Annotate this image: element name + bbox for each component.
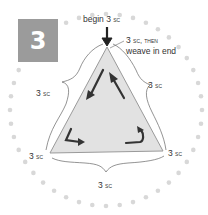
- label-right-sc: sc: [155, 81, 162, 90]
- begin-arrow-icon: [102, 27, 112, 46]
- label-br-sc: sc: [175, 149, 182, 158]
- label-left-num: 3: [36, 88, 41, 98]
- label-bottom-sc: sc: [105, 181, 112, 190]
- label-weave-line2: weave in end: [126, 46, 176, 56]
- label-weave-in-end: 3 sc, then weave in end: [126, 35, 176, 56]
- label-bl-sc: sc: [36, 152, 43, 161]
- label-weave-num: 3: [126, 35, 131, 45]
- label-left-side: 3 sc: [36, 88, 50, 99]
- label-bottom-right: 3 sc: [168, 148, 182, 159]
- step-number-badge: 3: [18, 19, 58, 62]
- label-right-num: 3: [148, 80, 153, 90]
- label-br-num: 3: [168, 148, 173, 158]
- label-bl-num: 3: [29, 151, 34, 161]
- label-begin: begin 3 sc: [83, 14, 120, 25]
- bottom-brace: [52, 156, 164, 172]
- step-number: 3: [30, 27, 47, 55]
- label-right-side: 3 sc: [148, 80, 162, 91]
- label-bottom-num: 3: [98, 180, 103, 190]
- label-bottom-left: 3 sc: [29, 151, 43, 162]
- label-weave-sc: sc, then: [133, 36, 158, 45]
- label-left-sc: sc: [43, 89, 50, 98]
- label-bottom: 3 sc: [98, 180, 112, 191]
- label-begin-sc: sc: [113, 15, 120, 24]
- label-begin-text: begin 3: [83, 14, 111, 24]
- weave-pointer-line: [110, 41, 124, 48]
